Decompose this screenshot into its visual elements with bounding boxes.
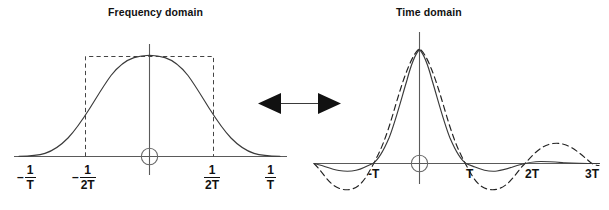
- fraction: 1 2T: [204, 164, 220, 191]
- time-domain-panel: [314, 32, 600, 190]
- fraction: 1 T: [265, 164, 276, 191]
- fraction: 1 T: [25, 164, 36, 191]
- domain-connector-arrow: [258, 93, 341, 114]
- time-pulse-curve: [314, 50, 599, 172]
- time-domain-title: Time domain: [396, 6, 462, 18]
- frequency-domain-panel: [14, 44, 287, 175]
- freq-tick-label-1-over-2T: 1 2T: [203, 164, 220, 191]
- freq-tick-label-neg-1-over-2T: – 1 2T: [72, 164, 96, 191]
- fraction-denominator: 2T: [204, 179, 220, 191]
- fraction-denominator: 2T: [80, 179, 96, 191]
- time-tick-label-neg-T: -T: [368, 167, 379, 181]
- connector-left-arrowhead-icon: [258, 93, 281, 114]
- minus-sign: –: [72, 171, 79, 183]
- frequency-domain-title: Frequency domain: [108, 6, 203, 18]
- time-sinc-curve: [314, 49, 599, 190]
- freq-tick-label-1-over-T: 1 T: [264, 164, 276, 191]
- time-tick-label-2T: 2T: [525, 167, 539, 181]
- time-tick-label-3T: 3T: [585, 167, 599, 181]
- time-tick-label-T: T: [466, 167, 473, 181]
- connector-right-arrowhead-icon: [318, 93, 341, 114]
- fraction-denominator: T: [266, 179, 275, 191]
- fraction-numerator: 1: [26, 164, 35, 176]
- minus-sign: –: [17, 171, 24, 183]
- fraction: 1 2T: [80, 164, 96, 191]
- freq-tick-label-neg-1-over-T: – 1 T: [17, 164, 36, 191]
- fraction-numerator: 1: [208, 164, 217, 176]
- fraction-numerator: 1: [266, 164, 275, 176]
- fraction-numerator: 1: [83, 164, 92, 176]
- fraction-denominator: T: [26, 179, 35, 191]
- figure-root: Frequency domain Time domain – 1 T – 1 2…: [0, 0, 609, 210]
